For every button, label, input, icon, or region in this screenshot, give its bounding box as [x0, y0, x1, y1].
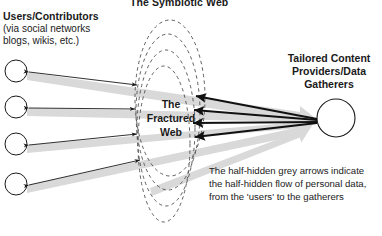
user-circle-3 [5, 133, 27, 155]
caption-line-1: The half-hidden grey arrows indicate [209, 165, 382, 178]
fractured-web-label-line-3: Web [140, 126, 202, 140]
page-title: The Symbiotic Web [130, 0, 310, 8]
gatherer-circle [317, 99, 355, 137]
fractured-web-label: The Fractured Web [140, 98, 202, 140]
gatherers-heading-line-3: Gatherers [276, 78, 382, 91]
users-heading: Users/Contributors [3, 10, 131, 22]
diagram-canvas: The Symbiotic Web Users/Contributors (vi… [0, 0, 382, 236]
fractured-web-label-line-2: Fractured [140, 112, 202, 126]
gatherers-heading-line-1: Tailored Content [276, 52, 382, 65]
users-subheading: (via social networks blogs, wikis, etc.) [3, 23, 131, 47]
users-subheading-line-1: (via social networks [3, 23, 131, 35]
user-circle-2 [5, 96, 27, 118]
users-subheading-line-2: blogs, wikis, etc.) [3, 35, 131, 47]
caption-line-2: the half-hidden flow of personal data, [209, 178, 382, 191]
user-circles [5, 60, 27, 195]
dashed-ellipse-4 [138, 66, 190, 222]
fractured-web-label-line-1: The [140, 98, 202, 112]
user-circle-4 [5, 173, 27, 195]
gatherer-web-arrow-3 [193, 122, 317, 123]
caption: The half-hidden grey arrows indicate the… [209, 165, 382, 203]
user-circle-1 [5, 60, 27, 82]
caption-line-3: from the 'users' to the gatherers [209, 191, 382, 204]
gatherers-heading: Tailored Content Providers/Data Gatherer… [276, 52, 382, 90]
gatherers-heading-line-2: Providers/Data [276, 65, 382, 78]
